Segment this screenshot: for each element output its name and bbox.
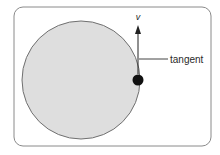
velocity-label: v xyxy=(136,12,141,22)
particle-dot xyxy=(133,75,144,86)
tangent-label: tangent xyxy=(170,54,204,65)
circular-motion-diagram: v tangent xyxy=(0,0,220,155)
circular-path-disc xyxy=(22,21,140,139)
